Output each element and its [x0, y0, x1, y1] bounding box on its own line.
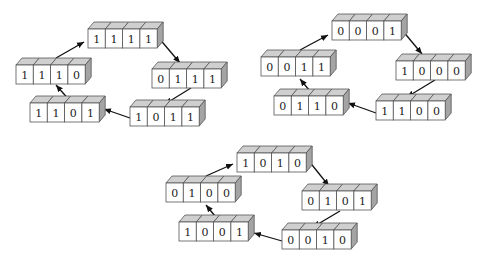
bit-value: 0 — [304, 234, 311, 247]
bit-value: 1 — [318, 61, 325, 74]
bit-value: 0 — [418, 65, 425, 78]
bit-value: 0 — [157, 73, 164, 86]
register-state: 0101 — [302, 184, 377, 210]
register-state: 1110 — [16, 58, 91, 84]
bit-value: 0 — [436, 65, 443, 78]
bit-value: 0 — [171, 187, 178, 200]
bit-value: 1 — [398, 105, 405, 118]
bit-value: 1 — [87, 107, 94, 120]
bit-value: 1 — [52, 107, 59, 120]
bit-value: 1 — [314, 100, 321, 113]
bit-value: 1 — [389, 25, 396, 38]
bit-value: 0 — [331, 100, 338, 113]
bit-value: 1 — [187, 111, 194, 124]
bit-value: 0 — [372, 25, 379, 38]
bit-value: 1 — [93, 33, 100, 46]
bit-value: 1 — [301, 61, 308, 74]
bit-value: 0 — [307, 195, 314, 208]
transition-arrow — [300, 35, 328, 50]
bit-value: 1 — [128, 33, 135, 46]
bit-value: 1 — [21, 69, 28, 82]
bit-value: 0 — [223, 187, 230, 200]
bit-value: 0 — [433, 105, 440, 118]
bit-value: 1 — [110, 33, 117, 46]
bit-value: 0 — [266, 61, 273, 74]
cycle-1: 11110111101111011110 — [16, 22, 227, 126]
register-state: 0111 — [152, 62, 227, 88]
bit-value: 0 — [283, 61, 290, 74]
bit-value: 0 — [416, 105, 423, 118]
register-state: 1001 — [179, 215, 254, 241]
bit-value: 0 — [453, 65, 460, 78]
bit-value: 1 — [324, 195, 331, 208]
transition-arrow — [206, 164, 233, 176]
bit-value: 1 — [236, 226, 243, 239]
register-state: 0110 — [274, 89, 349, 115]
bit-value: 0 — [206, 187, 213, 200]
bit-value: 1 — [401, 65, 408, 78]
register-state: 1010 — [237, 146, 312, 172]
bit-value: 1 — [38, 69, 45, 82]
register-state: 1011 — [130, 100, 205, 126]
bit-value: 1 — [188, 187, 195, 200]
bit-value: 1 — [296, 100, 303, 113]
bit-value: 1 — [242, 157, 249, 170]
state-diagram: 1111011110111101111000011000110001100011… — [0, 0, 485, 265]
bit-value: 1 — [381, 105, 388, 118]
bit-value: 1 — [209, 73, 216, 86]
bit-value: 1 — [135, 111, 142, 124]
transition-arrow — [254, 233, 282, 241]
bit-value: 1 — [322, 234, 329, 247]
bit-value: 0 — [339, 234, 346, 247]
bit-value: 0 — [259, 157, 266, 170]
register-state: 1100 — [376, 94, 451, 120]
bit-value: 1 — [35, 107, 42, 120]
bit-value: 1 — [145, 33, 152, 46]
register-state: 1111 — [88, 22, 163, 48]
register-state: 0011 — [261, 50, 336, 76]
cycle-2: 00011000110001100011 — [261, 14, 471, 120]
bit-value: 0 — [152, 111, 159, 124]
bit-value: 0 — [201, 226, 208, 239]
bit-value: 1 — [184, 226, 191, 239]
bit-value: 0 — [287, 234, 294, 247]
cycle-3: 10100101001010010100 — [166, 146, 377, 249]
bit-value: 0 — [354, 25, 361, 38]
bit-value: 0 — [73, 69, 80, 82]
bit-value: 1 — [192, 73, 199, 86]
bit-value: 0 — [294, 157, 301, 170]
register-state: 0010 — [282, 223, 357, 249]
register-state: 1101 — [30, 96, 105, 122]
bit-value: 0 — [70, 107, 77, 120]
register-state: 0100 — [166, 176, 241, 202]
bit-value: 1 — [56, 69, 63, 82]
bit-value: 0 — [337, 25, 344, 38]
transition-arrow — [348, 103, 376, 113]
bit-value: 0 — [219, 226, 226, 239]
bit-value: 1 — [170, 111, 177, 124]
bit-value: 0 — [342, 195, 349, 208]
bit-value: 1 — [174, 73, 181, 86]
register-state: 0001 — [332, 14, 407, 40]
boxes-layer: 1111011110111101111000011000110001100011… — [16, 14, 471, 249]
register-state: 1000 — [396, 54, 471, 80]
bit-value: 1 — [359, 195, 366, 208]
transition-arrow — [104, 109, 130, 118]
bit-value: 1 — [277, 157, 284, 170]
transition-arrow — [56, 42, 84, 58]
arrows-layer — [56, 30, 435, 241]
bit-value: 0 — [279, 100, 286, 113]
